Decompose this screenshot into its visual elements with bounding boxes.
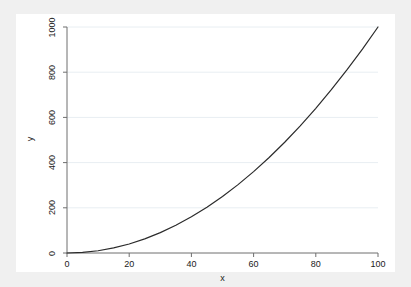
gridlines (67, 27, 378, 208)
series-line-y (67, 27, 378, 253)
x-tick-label-60: 60 (239, 259, 269, 269)
x-tick-label-40: 40 (176, 259, 206, 269)
tick-marks (63, 27, 378, 257)
y-axis-title: y (25, 129, 35, 149)
axis-lines (67, 27, 378, 253)
y-tick-label-400: 400 (47, 148, 58, 178)
x-tick-label-100: 100 (363, 259, 393, 269)
chart-figure: 02004006008001000 020406080100 y x (0, 0, 411, 287)
y-tick-label-1000: 1000 (47, 12, 58, 42)
x-tick-label-80: 80 (301, 259, 331, 269)
data-series (67, 27, 378, 253)
chart-canvas (0, 0, 411, 287)
y-tick-label-200: 200 (47, 193, 58, 223)
y-tick-label-600: 600 (47, 102, 58, 132)
x-tick-label-20: 20 (114, 259, 144, 269)
y-tick-label-800: 800 (47, 57, 58, 87)
x-tick-label-0: 0 (52, 259, 82, 269)
x-axis-title: x (213, 273, 233, 283)
